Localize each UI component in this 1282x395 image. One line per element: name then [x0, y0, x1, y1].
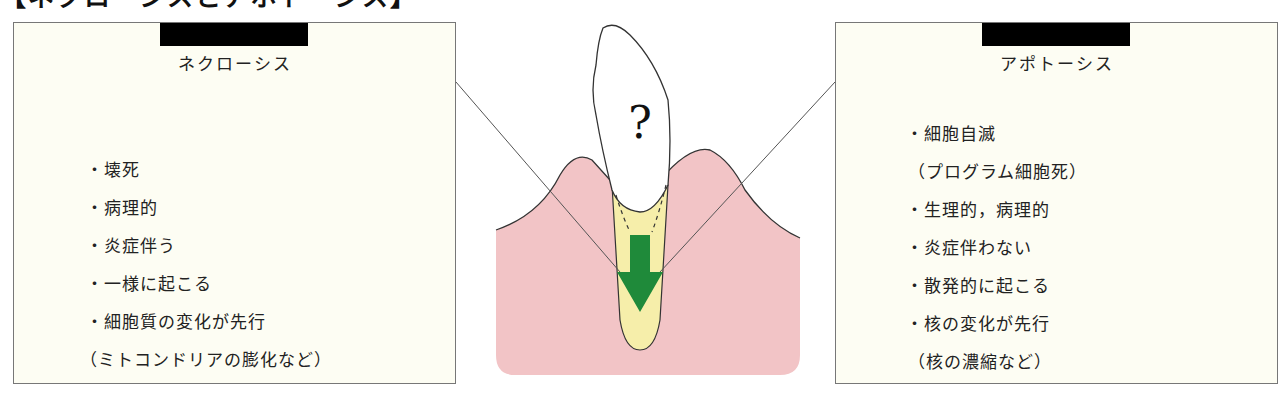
necrosis-list: ・壊死 ・病理的 ・炎症伴う ・一様に起こる ・細胞質の変化が先行 （ミトコンド…: [86, 155, 332, 383]
page-heading: 【ネクローシスとアポトーシス】: [0, 0, 418, 6]
tooth-diagram: ?: [456, 0, 835, 395]
list-item-note: （ミトコンドリアの膨化など）: [80, 345, 332, 383]
list-item: ・細胞自滅: [906, 119, 1087, 157]
list-item: ・壊死: [86, 155, 332, 193]
list-item: ・生理的，病理的: [906, 195, 1087, 233]
list-item: ・炎症伴う: [86, 231, 332, 269]
list-item: ・核の変化が先行: [906, 309, 1087, 347]
list-item: ・病理的: [86, 193, 332, 231]
necrosis-title: ネクローシス: [14, 50, 455, 75]
list-item: ・散発的に起こる: [906, 271, 1087, 309]
redacted-label: [982, 23, 1130, 46]
apoptosis-title: アポトーシス: [836, 50, 1277, 75]
list-item: ・細胞質の変化が先行: [86, 307, 332, 345]
redacted-label: [160, 23, 308, 46]
tooth-question-mark: ?: [628, 97, 652, 148]
list-item: ・一様に起こる: [86, 269, 332, 307]
apoptosis-panel: アポトーシス ・細胞自滅 （プログラム細胞死） ・生理的，病理的 ・炎症伴わない…: [835, 22, 1278, 384]
list-item: ・炎症伴わない: [906, 233, 1087, 271]
list-item-note: （プログラム細胞死）: [908, 157, 1087, 195]
apoptosis-list: ・細胞自滅 （プログラム細胞死） ・生理的，病理的 ・炎症伴わない ・散発的に起…: [906, 119, 1087, 385]
necrosis-panel: ネクローシス ・壊死 ・病理的 ・炎症伴う ・一様に起こる ・細胞質の変化が先行…: [13, 22, 456, 384]
list-item-note: （核の濃縮など）: [908, 347, 1087, 385]
